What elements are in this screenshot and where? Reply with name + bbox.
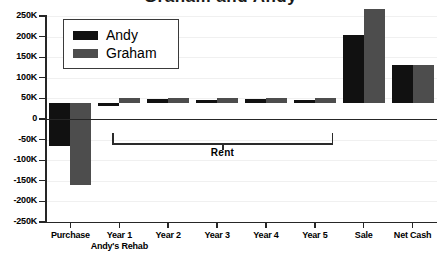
y-tick-mark (39, 118, 46, 119)
bar-group (341, 0, 387, 206)
x-tick-mark (70, 222, 71, 228)
y-tick-label: 150K (16, 51, 37, 61)
x-label-net-cash: Net Cash (368, 230, 441, 240)
bar-graham-year-3 (217, 98, 238, 103)
y-tick-label: 100K (16, 72, 37, 82)
y-tick-mark (39, 77, 46, 78)
y-tick-mark (39, 57, 46, 58)
y-tick-label: -150K (13, 175, 37, 185)
bar-group (243, 0, 289, 206)
y-tick-label: -250K (13, 216, 37, 226)
y-tick-mark (39, 160, 46, 161)
y-tick-mark (39, 15, 46, 16)
bar-graham-net-cash (413, 65, 434, 103)
legend-label-graham: Graham (106, 46, 157, 60)
bar-andy-year-5 (294, 100, 315, 103)
legend-item-graham: Graham (73, 44, 178, 62)
bar-andy-sale (343, 35, 364, 103)
bar-graham-year-5 (315, 98, 336, 103)
rent-annotation-label: Rent (112, 147, 333, 158)
bar-andy-year-3 (196, 100, 217, 103)
bracket-right-arm (332, 133, 334, 144)
bar-chart: Graham and Andy 250K200K150K100K50K0-50K… (0, 0, 441, 255)
bar-andy-year-4 (245, 99, 266, 103)
bar-graham-year-1 (119, 98, 140, 103)
bar-group (390, 0, 436, 206)
bar-andy-year-1 (98, 103, 119, 106)
y-tick-label: 250K (16, 10, 37, 20)
y-tick-mark (39, 139, 46, 140)
x-tick-mark (412, 222, 413, 228)
y-tick-label: 50K (21, 92, 37, 102)
bar-graham-year-2 (168, 98, 189, 103)
bar-andy-purchase (49, 103, 70, 146)
y-tick-label: -200K (13, 195, 37, 205)
y-tick-label: 200K (16, 31, 37, 41)
bar-graham-year-4 (266, 98, 287, 103)
x-tick-mark (167, 222, 168, 228)
chart-legend: Andy Graham (63, 19, 179, 69)
x-sublabel-andys-rehab: Andy's Rehab (74, 241, 164, 251)
legend-swatch-andy (73, 31, 98, 40)
y-tick-label: 0 (32, 113, 37, 123)
x-tick-mark (265, 222, 266, 228)
bar-group (292, 0, 338, 206)
x-tick-mark (216, 222, 217, 228)
y-tick-mark (39, 221, 46, 222)
bar-group (194, 0, 240, 206)
legend-swatch-graham (73, 49, 98, 58)
x-tick-mark (314, 222, 315, 228)
bar-graham-purchase (70, 103, 91, 185)
rent-bracket-annotation (112, 133, 333, 145)
y-tick-mark (39, 201, 46, 202)
y-tick-mark (39, 180, 46, 181)
x-tick-mark (363, 222, 364, 228)
y-tick-label: -50K (18, 134, 37, 144)
y-tick-mark (39, 98, 46, 99)
y-tick-mark (39, 36, 46, 37)
legend-item-andy: Andy (73, 26, 178, 44)
x-tick-mark (119, 222, 120, 228)
bar-graham-sale (364, 9, 385, 103)
bar-andy-net-cash (392, 65, 413, 103)
legend-label-andy: Andy (106, 28, 138, 42)
y-tick-label: -100K (13, 154, 37, 164)
zero-line (46, 119, 437, 120)
x-axis-line (45, 222, 437, 224)
bar-andy-year-2 (147, 99, 168, 103)
